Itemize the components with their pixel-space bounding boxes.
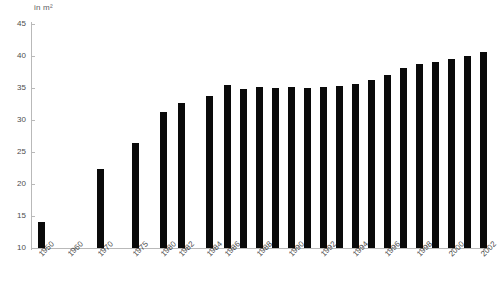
bar-1980 — [160, 112, 167, 248]
bar-1994 — [352, 84, 359, 248]
bar-1987 — [240, 89, 247, 248]
bar-1996 — [384, 75, 391, 248]
bar-1992 — [320, 87, 327, 248]
bar-1991 — [304, 88, 311, 248]
bar-2002 — [480, 52, 487, 248]
bar-1984 — [206, 96, 213, 248]
bar-1989 — [272, 88, 279, 248]
bar-1997 — [400, 68, 407, 248]
bar-1990 — [288, 87, 295, 248]
bar-1988 — [256, 87, 263, 248]
bar-1986 — [224, 85, 231, 248]
bar-2001 — [464, 56, 471, 248]
bar-1998 — [416, 64, 423, 248]
bar-1982 — [178, 103, 185, 248]
bar-1993 — [336, 86, 343, 248]
y-tick-mark — [31, 248, 35, 249]
bar-1970 — [97, 169, 104, 248]
bar-1995 — [368, 80, 375, 248]
bar-2000 — [448, 59, 455, 248]
bar-1950 — [38, 222, 45, 248]
bars-layer — [0, 0, 496, 248]
bar-1975 — [132, 143, 139, 248]
bar-1999 — [432, 62, 439, 248]
